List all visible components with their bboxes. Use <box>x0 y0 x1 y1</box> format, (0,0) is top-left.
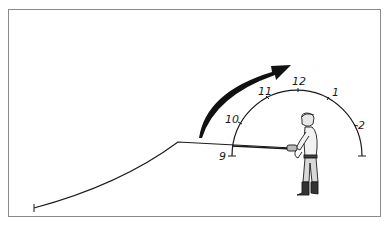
clock-label-9: 9 <box>219 150 226 163</box>
motion-arrow-icon <box>199 65 291 138</box>
clock-label-10: 10 <box>225 113 239 126</box>
clock-label-1: 1 <box>332 86 339 99</box>
casting-diagram: 9 10 11 12 1 2 <box>0 0 389 227</box>
fly-line <box>34 142 292 212</box>
angler-figure <box>287 113 318 195</box>
clock-label-2: 2 <box>358 119 365 132</box>
clock-label-11: 11 <box>258 85 272 98</box>
clock-label-12: 12 <box>292 75 306 88</box>
